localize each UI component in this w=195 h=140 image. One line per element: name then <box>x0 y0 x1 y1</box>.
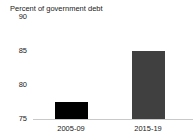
x-tick-label: 2005-09 <box>49 124 93 133</box>
bar-2015-19 <box>132 51 165 119</box>
bar-chart: Percent of government debt 75808590 2005… <box>0 0 195 140</box>
y-tick-label: 90 <box>0 12 27 21</box>
x-tick-label: 2015-19 <box>126 124 170 133</box>
y-tick-label: 75 <box>0 114 27 123</box>
y-tick-label: 80 <box>0 80 27 89</box>
y-tick-label: 85 <box>0 46 27 55</box>
x-axis-baseline <box>33 119 193 120</box>
bar-2005-09 <box>55 102 88 119</box>
